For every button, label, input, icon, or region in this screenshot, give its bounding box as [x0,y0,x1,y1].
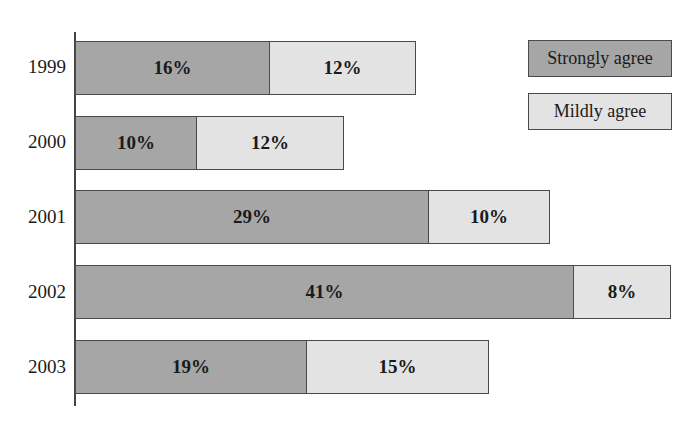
bar-mildly-agree: 12% [270,41,416,95]
legend-mildly-agree: Mildly agree [528,93,672,130]
bar-strongly-agree: 10% [75,116,197,170]
bar-row-2002: 41% 8% [75,265,671,319]
bar-row-2000: 10% 12% [75,116,344,170]
bar-strongly-agree: 16% [75,41,270,95]
bar-mildly-agree: 10% [429,190,550,244]
bar-mildly-agree: 12% [197,116,344,170]
y-tick-label: 2000 [0,131,66,153]
legend-strongly-agree: Strongly agree [528,40,672,77]
stacked-bar-chart: 1999 16% 12% 2000 10% 12% 2001 29% 10% 2… [0,0,699,427]
bar-mildly-agree: 15% [307,340,489,394]
bar-strongly-agree: 29% [75,190,429,244]
bar-row-1999: 16% 12% [75,41,416,95]
bar-strongly-agree: 19% [75,340,307,394]
bar-mildly-agree: 8% [574,265,671,319]
bar-row-2003: 19% 15% [75,340,489,394]
bar-strongly-agree: 41% [75,265,574,319]
y-tick-label: 2003 [0,356,66,378]
y-tick-label: 2001 [0,206,66,228]
y-tick-label: 1999 [0,56,66,78]
bar-row-2001: 29% 10% [75,190,550,244]
y-tick-label: 2002 [0,281,66,303]
